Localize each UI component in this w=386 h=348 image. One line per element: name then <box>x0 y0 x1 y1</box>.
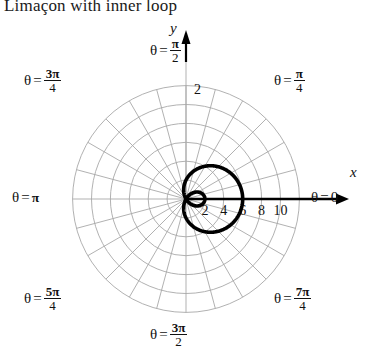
axis-lines <box>73 30 349 205</box>
x-axis-label: x <box>350 164 357 181</box>
theta-label-pi-4: θ=π4 <box>274 68 305 96</box>
theta-label-0: θ=0 <box>311 190 338 205</box>
figure-title: Limaçon with inner loop <box>4 0 177 16</box>
theta-label-3pi-2: θ=3π2 <box>150 322 187 348</box>
theta-label-7pi-4: θ=7π4 <box>274 286 311 314</box>
axis-tick-labels: 2468102 <box>194 82 288 218</box>
svg-text:8: 8 <box>258 203 265 218</box>
svg-text:10: 10 <box>274 203 288 218</box>
svg-text:2: 2 <box>194 82 201 97</box>
y-axis-label: y <box>170 20 177 37</box>
theta-label-5pi-4: θ=5π4 <box>24 286 61 314</box>
theta-label-3pi-4: θ=3π4 <box>24 68 61 96</box>
theta-label-pi-2: θ=π2 <box>150 38 181 66</box>
polar-limacon-figure: Limaçon with inner loop 2468102 x y θ=0 … <box>0 0 386 348</box>
svg-text:4: 4 <box>220 203 227 218</box>
theta-label-pi: θ=π <box>12 190 39 205</box>
